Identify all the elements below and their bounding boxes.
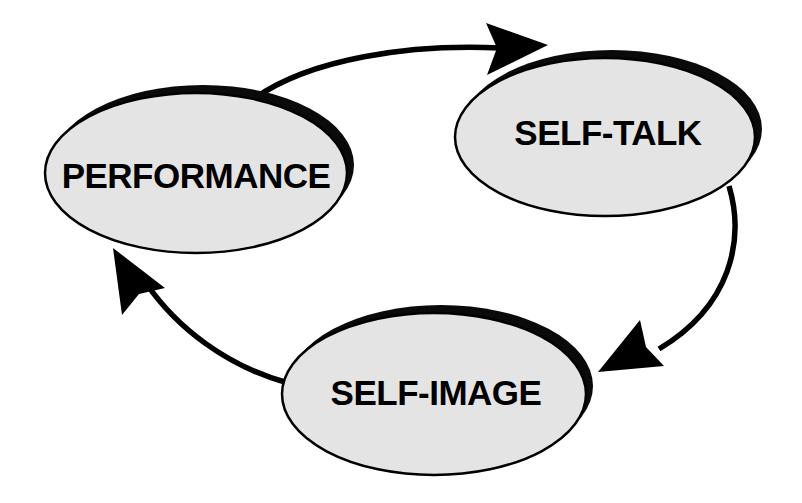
cycle-diagram: PERFORMANCE SELF-TALK SELF-IMAGE [0,0,802,503]
node-self-talk-label: SELF-TALK [514,113,702,152]
node-performance-label: PERFORMANCE [62,156,331,195]
node-self-image-label: SELF-IMAGE [331,373,542,412]
diagram-canvas: PERFORMANCE SELF-TALK SELF-IMAGE [0,0,802,503]
